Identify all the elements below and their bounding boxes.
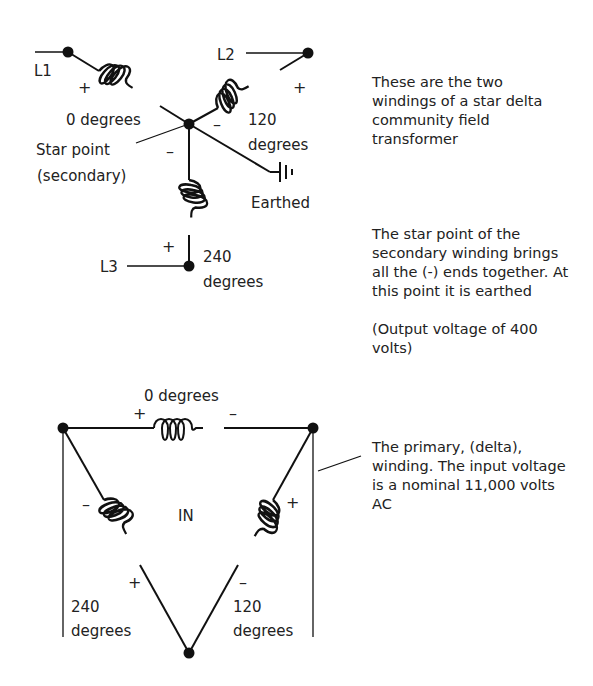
label-delta-240deg-b: degrees <box>71 622 132 640</box>
label-star-120deg-a: 120 <box>248 111 277 129</box>
label-delta-120deg-b: degrees <box>233 622 294 640</box>
coil-240deg <box>179 180 207 218</box>
sign-minus: – <box>82 495 90 514</box>
earth-icon <box>270 162 292 182</box>
note-primary: The primary, (delta), winding. The input… <box>372 438 577 514</box>
label-secondary: (secondary) <box>37 167 126 185</box>
label-l2: L2 <box>217 46 235 64</box>
sign-plus: + <box>293 78 306 97</box>
note-windings: These are the two windings of a star del… <box>372 73 557 149</box>
sign-plus: + <box>133 404 146 423</box>
label-in: IN <box>178 507 194 525</box>
delta-winding: 0 degrees + – IN – + + – 240 degrees 120… <box>58 387 362 659</box>
star-point-pointer <box>136 125 186 143</box>
sign-plus: + <box>128 573 141 592</box>
sign-plus: + <box>162 237 175 256</box>
label-star-0deg: 0 degrees <box>66 111 141 129</box>
coil-delta-0deg <box>154 419 203 440</box>
sign-plus: + <box>78 78 91 97</box>
sign-minus: – <box>229 404 237 423</box>
note-star-point: The star point of the secondary winding … <box>372 225 572 301</box>
label-l1: L1 <box>34 62 52 80</box>
sign-minus: – <box>166 142 174 161</box>
label-delta-0deg: 0 degrees <box>144 387 219 405</box>
sign-minus: – <box>239 573 247 592</box>
label-star-point: Star point <box>36 141 110 159</box>
label-earthed: Earthed <box>251 194 310 212</box>
sign-minus: – <box>213 115 221 134</box>
star-winding: L1 L2 L3 + + + – – 0 degrees 120 degrees… <box>34 46 314 291</box>
label-l3: L3 <box>100 258 118 276</box>
coil-0deg <box>94 55 140 98</box>
label-star-120deg-b: degrees <box>248 136 309 154</box>
label-delta-240deg-a: 240 <box>71 598 100 616</box>
sign-plus: + <box>286 493 299 512</box>
coil-delta-120deg <box>244 495 288 544</box>
note-output-voltage: (Output voltage of 400 volts) <box>372 320 572 358</box>
label-star-240deg-b: degrees <box>203 273 264 291</box>
label-star-240deg-a: 240 <box>203 248 232 266</box>
primary-pointer <box>318 456 361 471</box>
label-delta-120deg-a: 120 <box>233 598 262 616</box>
